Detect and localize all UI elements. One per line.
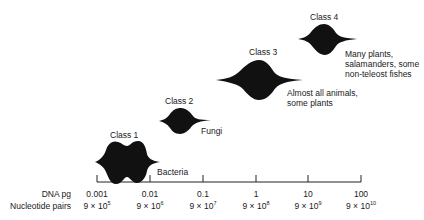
tick-bp-exp: 10: [370, 200, 376, 206]
tick-bp-5: 9 × 1010: [331, 201, 391, 211]
tick-dna-4: 10: [278, 189, 338, 199]
organism-line: Bacteria: [157, 167, 188, 177]
tick-dna-0: 0.001: [67, 189, 127, 199]
tick-bp-exp: 8: [266, 200, 269, 206]
organism-line: salamanders, some: [345, 59, 419, 69]
tick-bp-exp: 7: [213, 200, 216, 206]
tick-bp-exp: 5: [107, 200, 110, 206]
tick-dna-3: 1: [226, 189, 286, 199]
organism-line: non-teleost fishes: [345, 69, 419, 79]
organism-line: Fungi: [201, 126, 222, 136]
class-1-label: Class 1: [110, 130, 138, 140]
organism-line: Almost all animals,: [287, 88, 358, 98]
class-3-organisms: Almost all animals, some plants: [287, 88, 358, 108]
tick-bp-exp: 6: [160, 200, 163, 206]
tick-bp-2: 9 × 107: [173, 201, 233, 211]
organism-line: Many plants,: [345, 49, 419, 59]
tick-bp-base: 9 × 10: [243, 201, 267, 211]
tick-bp-exp: 9: [318, 200, 321, 206]
class-4-label: Class 4: [310, 12, 338, 22]
tick-bp-base: 9 × 10: [346, 201, 370, 211]
tick-bp-base: 9 × 10: [190, 201, 214, 211]
tick-bp-base: 9 × 10: [295, 201, 319, 211]
tick-bp-4: 9 × 109: [278, 201, 338, 211]
tick-bp-0: 9 × 105: [67, 201, 127, 211]
class-2-label: Class 2: [165, 96, 193, 106]
tick-bp-3: 9 × 108: [226, 201, 286, 211]
organism-line: some plants: [287, 98, 358, 108]
tick-dna-1: 0.01: [120, 189, 180, 199]
tick-bp-1: 9 × 106: [120, 201, 180, 211]
class-3-label: Class 3: [249, 47, 277, 57]
class-4-organisms: Many plants, salamanders, some non-teleo…: [345, 49, 419, 79]
class-2-organisms: Fungi: [201, 126, 222, 136]
diagram-canvas: [0, 0, 424, 220]
tick-bp-base: 9 × 10: [137, 201, 161, 211]
tick-dna-2: 0.1: [173, 189, 233, 199]
tick-bp-base: 9 × 10: [84, 201, 108, 211]
class-1-organisms: Bacteria: [157, 167, 188, 177]
nucleotide-pairs-row-label: Nucleotide pairs: [10, 201, 71, 211]
tick-dna-5: 100: [331, 189, 391, 199]
